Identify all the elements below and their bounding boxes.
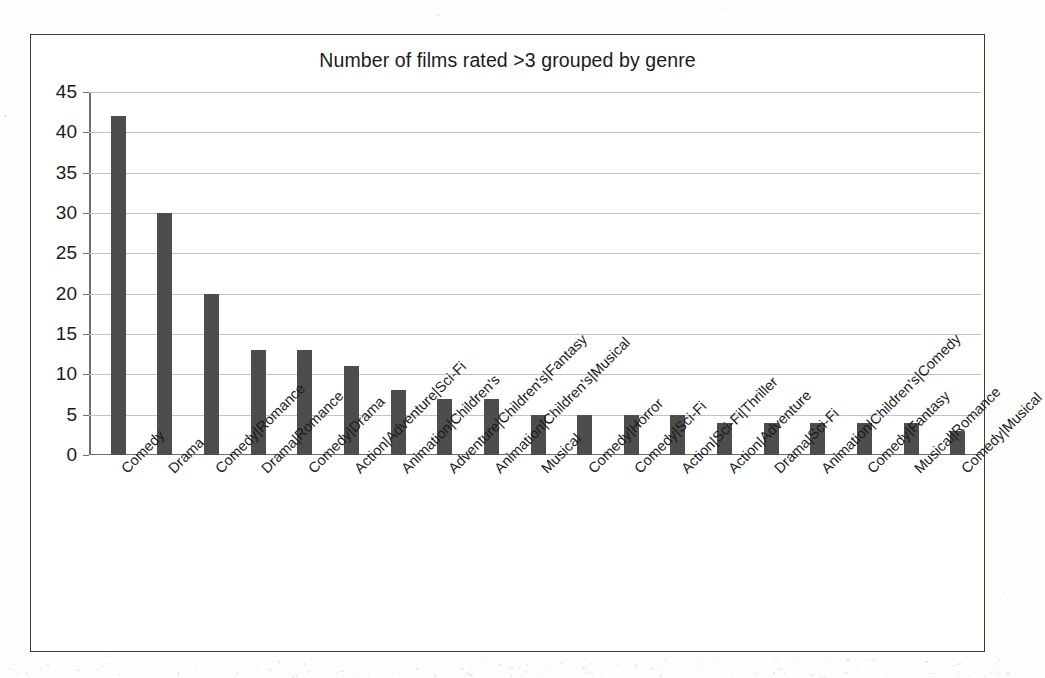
scan-speck	[813, 664, 816, 665]
scan-speck	[159, 662, 161, 663]
scan-speck	[995, 663, 997, 665]
scan-speck	[948, 660, 951, 662]
scan-speck	[820, 675, 822, 677]
scan-speck	[886, 675, 888, 676]
scan-speck	[1011, 669, 1012, 671]
scan-speck	[780, 668, 783, 669]
scan-speck	[358, 671, 359, 673]
scan-speck	[4, 115, 7, 116]
scan-speck	[299, 667, 301, 668]
scan-speck	[820, 664, 823, 666]
scan-speck	[775, 658, 777, 659]
scan-speck	[469, 674, 472, 676]
scan-speck	[336, 673, 338, 675]
scan-speck	[437, 14, 440, 16]
scan-speck	[953, 665, 955, 667]
scan-speck	[499, 664, 502, 666]
bar	[157, 213, 172, 455]
scan-speck	[40, 667, 42, 668]
scan-speck	[641, 673, 642, 675]
scan-speck	[292, 676, 295, 678]
scan-speck	[579, 660, 582, 661]
scan-speck	[755, 673, 758, 676]
scan-speck	[509, 666, 512, 669]
scan-speck	[507, 667, 510, 669]
scan-speck	[1007, 672, 1009, 675]
scan-speck	[880, 666, 882, 667]
scan-speck	[629, 659, 631, 661]
scan-speck	[400, 659, 401, 661]
scan-speck	[931, 673, 934, 674]
scan-speck	[470, 665, 473, 668]
scan-speck	[843, 672, 846, 674]
scan-speck	[811, 674, 814, 676]
scan-speck	[96, 669, 97, 671]
scan-speck	[9, 668, 11, 670]
scan-speck	[583, 667, 585, 669]
scan-speck	[659, 671, 661, 672]
scan-speck	[256, 666, 258, 667]
scan-speck	[773, 672, 774, 674]
scan-speck	[303, 662, 306, 665]
scan-speck	[784, 673, 787, 676]
scan-speck	[177, 672, 180, 675]
chart-frame: Number of films rated >3 grouped by genr…	[30, 34, 985, 652]
scan-speck	[710, 659, 713, 661]
scan-speck	[457, 673, 458, 674]
plot-area: 051015202530354045	[89, 92, 981, 455]
scan-speck	[368, 12, 369, 13]
bar	[577, 415, 592, 455]
y-axis-tick-label: 30	[56, 202, 77, 224]
scan-speck	[634, 664, 637, 666]
scan-speck	[722, 28, 724, 30]
scan-speck	[445, 661, 446, 664]
scan-speck	[368, 675, 371, 677]
y-axis-tick-label: 10	[56, 363, 77, 385]
scan-speck	[931, 661, 932, 662]
scan-speck	[942, 671, 943, 673]
scan-speck	[973, 671, 975, 672]
scan-speck	[408, 653, 409, 654]
scan-speck	[398, 671, 399, 674]
scan-speck	[188, 665, 189, 667]
scan-speck	[278, 663, 279, 664]
y-axis-tick-label: 0	[66, 444, 77, 466]
scan-speck	[416, 658, 419, 660]
scan-speck	[449, 667, 452, 668]
scan-speck	[118, 674, 120, 675]
scan-speck	[528, 668, 531, 669]
scan-speck	[485, 658, 486, 660]
scan-speck	[925, 661, 928, 663]
bar	[204, 294, 219, 455]
y-axis-tick-label: 25	[56, 242, 77, 264]
scan-speck	[163, 675, 165, 676]
scan-speck	[941, 668, 942, 669]
scan-speck	[546, 668, 549, 670]
scan-speck	[47, 664, 49, 665]
scan-speck	[590, 663, 593, 664]
scan-speck	[101, 666, 103, 668]
scan-speck	[592, 675, 595, 677]
y-axis-tick-label: 35	[56, 162, 77, 184]
scan-speck	[434, 674, 437, 676]
scan-speck	[998, 659, 999, 662]
scan-speck	[461, 668, 464, 670]
y-axis-tick-label: 40	[56, 121, 77, 143]
scan-speck	[60, 5, 63, 6]
scan-speck	[524, 671, 526, 672]
scan-speck	[794, 662, 795, 664]
scan-speck	[586, 669, 588, 671]
scan-speck	[722, 8, 724, 10]
scan-speck	[526, 664, 529, 665]
y-axis-tick-label: 45	[56, 81, 77, 103]
scan-speck	[278, 661, 279, 663]
scan-speck	[102, 661, 105, 662]
scan-speck	[303, 667, 304, 668]
scan-speck	[591, 663, 593, 664]
scan-speck	[588, 673, 591, 675]
scan-speck	[257, 670, 258, 673]
scan-speck	[1007, 597, 1008, 600]
scan-speck	[847, 665, 850, 666]
scan-speck	[827, 656, 829, 657]
scan-speck	[659, 674, 662, 677]
